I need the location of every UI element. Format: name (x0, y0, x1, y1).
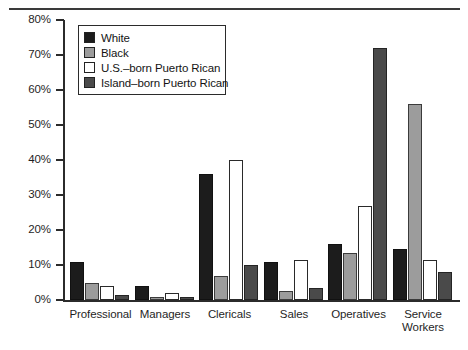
bar (358, 206, 372, 301)
bar (328, 244, 342, 300)
bar (165, 293, 179, 300)
bar (115, 295, 129, 300)
y-axis-tick (56, 264, 64, 266)
bar-group (328, 20, 389, 300)
top-rule-divider (9, 8, 460, 10)
y-axis-tick (56, 124, 64, 126)
legend-label: U.S.–born Puerto Rican (101, 62, 220, 74)
y-axis-tick-label: 60% (0, 84, 51, 96)
y-axis-tick-label: 20% (0, 224, 51, 236)
bar (180, 297, 194, 301)
y-axis-tick (56, 229, 64, 231)
bar-group-bars (328, 20, 387, 300)
y-axis-tick-label: 30% (0, 189, 51, 201)
bar (244, 265, 258, 300)
y-axis-tick (56, 89, 64, 91)
y-axis-tick-label: 80% (0, 14, 51, 26)
y-axis-tick (56, 299, 64, 301)
legend-swatch-black (84, 47, 95, 58)
bar-group-bars (264, 20, 323, 300)
bar (279, 291, 293, 300)
bar (294, 260, 308, 300)
bar (309, 288, 323, 300)
bar (85, 283, 99, 301)
x-axis-line (63, 300, 460, 302)
y-axis-tick-label: 70% (0, 49, 51, 61)
bar (408, 104, 422, 300)
bar (229, 160, 243, 300)
y-axis-tick-label: 40% (0, 154, 51, 166)
bar (264, 262, 278, 301)
bar (70, 262, 84, 301)
bar (199, 174, 213, 300)
bar (343, 253, 357, 300)
bar-chart-figure: 0%10%20%30%40%50%60%70%80% ProfessionalM… (0, 0, 468, 350)
bar (423, 260, 437, 300)
bar (214, 276, 228, 301)
legend-item: Black (84, 45, 219, 60)
legend-label: Black (101, 47, 129, 59)
y-axis-tick (56, 19, 64, 21)
y-axis-tick-label: 10% (0, 259, 51, 271)
bar (438, 272, 452, 300)
legend-swatch-us-born-puerto-rican (84, 62, 95, 73)
y-axis-tick (56, 194, 64, 196)
y-axis-tick (56, 54, 64, 56)
legend-item: U.S.–born Puerto Rican (84, 60, 219, 75)
bar (393, 249, 407, 300)
legend-label: Island–born Puerto Rican (101, 77, 228, 89)
bar (373, 48, 387, 300)
bar (100, 286, 114, 300)
x-axis-category-label: Service Workers (379, 308, 468, 334)
bar-group-bars (393, 20, 452, 300)
legend-item: Island–born Puerto Rican (84, 75, 219, 90)
y-axis-tick-label: 50% (0, 119, 51, 131)
bar (150, 297, 164, 301)
legend-label: White (101, 32, 130, 44)
bar-group (393, 20, 454, 300)
legend-item: White (84, 30, 219, 45)
legend-swatch-island-born-puerto-rican (84, 77, 95, 88)
y-axis-tick (56, 159, 64, 161)
legend-swatch-white (84, 32, 95, 43)
chart-legend: White Black U.S.–born Puerto Rican Islan… (78, 25, 226, 95)
bar-group (264, 20, 325, 300)
bar (135, 286, 149, 300)
y-axis-tick-label: 0% (0, 294, 51, 306)
